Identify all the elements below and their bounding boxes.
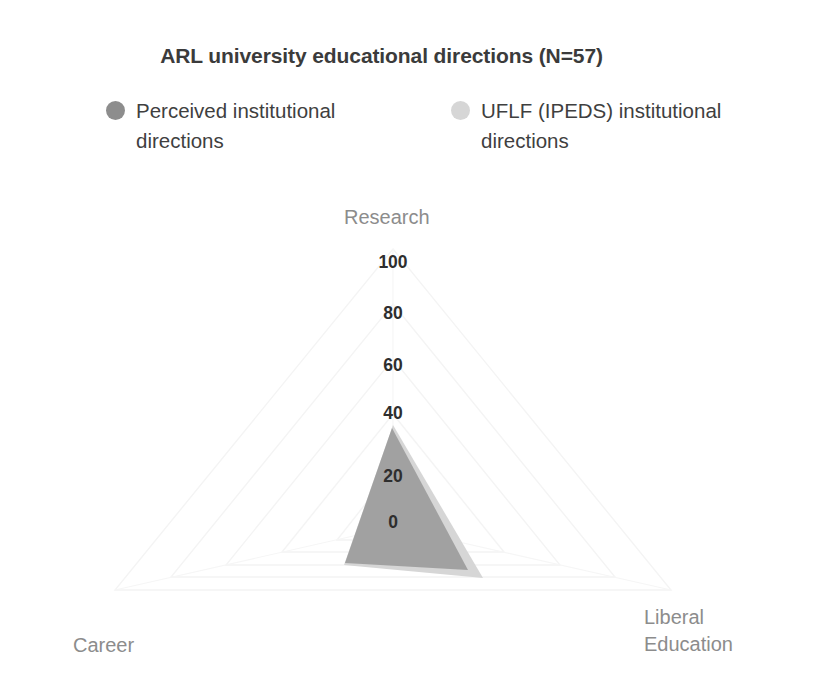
tick-label-60: 60	[363, 355, 423, 376]
tick-label-80: 80	[363, 303, 423, 324]
tick-label-40: 40	[363, 403, 423, 424]
tick-label-100: 100	[363, 252, 423, 273]
tick-label-20: 20	[363, 466, 423, 487]
plot-area	[0, 0, 823, 692]
radar-svg	[0, 0, 823, 692]
axis-label-liberal: Liberal Education	[644, 604, 733, 658]
tick-label-0: 0	[363, 512, 423, 533]
axis-label-career: Career	[73, 632, 134, 659]
radar-chart-figure: ARL university educational directions (N…	[0, 0, 823, 692]
axis-label-research: Research	[344, 204, 430, 231]
